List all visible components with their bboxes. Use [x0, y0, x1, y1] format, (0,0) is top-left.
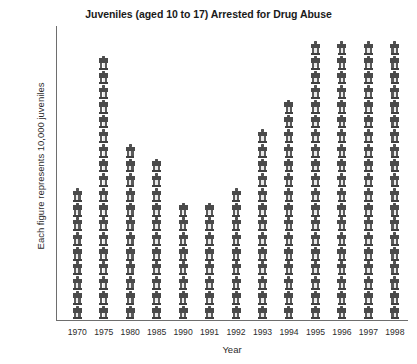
person-icon: [203, 305, 216, 320]
person-icon: [309, 247, 322, 262]
person-icon: [362, 158, 375, 173]
pictograph-column: [143, 26, 169, 320]
person-icon: [388, 173, 401, 188]
person-icon: [71, 305, 84, 320]
person-icon: [335, 100, 348, 115]
person-icon: [150, 232, 163, 247]
person-icon: [362, 305, 375, 320]
person-icon: [97, 144, 110, 159]
person-icon: [256, 291, 269, 306]
person-icon: [388, 114, 401, 129]
person-icon: [124, 158, 137, 173]
person-icon: [150, 305, 163, 320]
person-icon: [388, 291, 401, 306]
person-icon: [388, 129, 401, 144]
person-icon: [256, 188, 269, 203]
person-icon: [282, 217, 295, 232]
x-tick-label: 1995: [302, 326, 328, 340]
person-icon: [335, 144, 348, 159]
person-icon: [335, 158, 348, 173]
person-icon: [362, 85, 375, 100]
person-icon: [124, 232, 137, 247]
person-icon: [150, 173, 163, 188]
person-icon: [282, 247, 295, 262]
pictograph-column: [276, 26, 302, 320]
pictograph-column: [117, 26, 143, 320]
x-tick-label: 1992: [223, 326, 249, 340]
person-icon: [362, 217, 375, 232]
person-icon: [282, 173, 295, 188]
x-tick-label: 1985: [143, 326, 169, 340]
person-icon: [335, 247, 348, 262]
person-icon: [335, 291, 348, 306]
person-icon: [71, 203, 84, 218]
person-icon: [309, 85, 322, 100]
person-icon: [124, 291, 137, 306]
person-icon: [256, 129, 269, 144]
person-icon: [335, 232, 348, 247]
person-icon: [282, 203, 295, 218]
person-icon: [256, 217, 269, 232]
person-icon: [282, 261, 295, 276]
x-axis-tick-labels: 1970197519801985199019911992199319941995…: [56, 326, 408, 340]
person-icon: [362, 173, 375, 188]
person-icon: [256, 247, 269, 262]
person-icon: [177, 276, 190, 291]
person-icon: [335, 217, 348, 232]
pictograph-column: [382, 26, 408, 320]
person-icon: [362, 203, 375, 218]
person-icon: [362, 100, 375, 115]
person-icon: [124, 217, 137, 232]
person-icon: [309, 70, 322, 85]
pictograph-column: [302, 26, 328, 320]
person-icon: [230, 217, 243, 232]
person-icon: [71, 276, 84, 291]
person-icon: [362, 247, 375, 262]
person-icon: [230, 276, 243, 291]
person-icon: [309, 144, 322, 159]
person-icon: [335, 188, 348, 203]
person-icon: [124, 188, 137, 203]
person-icon: [309, 56, 322, 71]
x-tick-label: 1998: [382, 326, 408, 340]
person-icon: [362, 291, 375, 306]
person-icon: [335, 70, 348, 85]
person-icon: [309, 158, 322, 173]
person-icon: [230, 261, 243, 276]
pictograph-column: [90, 26, 116, 320]
person-icon: [97, 291, 110, 306]
person-icon: [97, 173, 110, 188]
person-icon: [230, 247, 243, 262]
person-icon: [177, 291, 190, 306]
person-icon: [388, 144, 401, 159]
person-icon: [388, 261, 401, 276]
person-icon: [97, 129, 110, 144]
person-icon: [309, 291, 322, 306]
person-icon: [97, 261, 110, 276]
person-icon: [71, 188, 84, 203]
person-icon: [335, 203, 348, 218]
person-icon: [335, 173, 348, 188]
person-icon: [97, 217, 110, 232]
person-icon: [177, 217, 190, 232]
person-icon: [71, 232, 84, 247]
person-icon: [309, 173, 322, 188]
person-icon: [388, 305, 401, 320]
pictograph-column: [170, 26, 196, 320]
pictograph-chart: Juveniles (aged 10 to 17) Arrested for D…: [0, 0, 417, 364]
person-icon: [150, 188, 163, 203]
person-icon: [230, 203, 243, 218]
person-icon: [335, 56, 348, 71]
chart-title: Juveniles (aged 10 to 17) Arrested for D…: [0, 8, 417, 20]
person-icon: [256, 203, 269, 218]
person-icon: [150, 217, 163, 232]
person-icon: [335, 129, 348, 144]
person-icon: [97, 247, 110, 262]
person-icon: [362, 70, 375, 85]
person-icon: [282, 129, 295, 144]
person-icon: [97, 56, 110, 71]
person-icon: [150, 261, 163, 276]
person-icon: [282, 232, 295, 247]
person-icon: [388, 203, 401, 218]
person-icon: [256, 305, 269, 320]
